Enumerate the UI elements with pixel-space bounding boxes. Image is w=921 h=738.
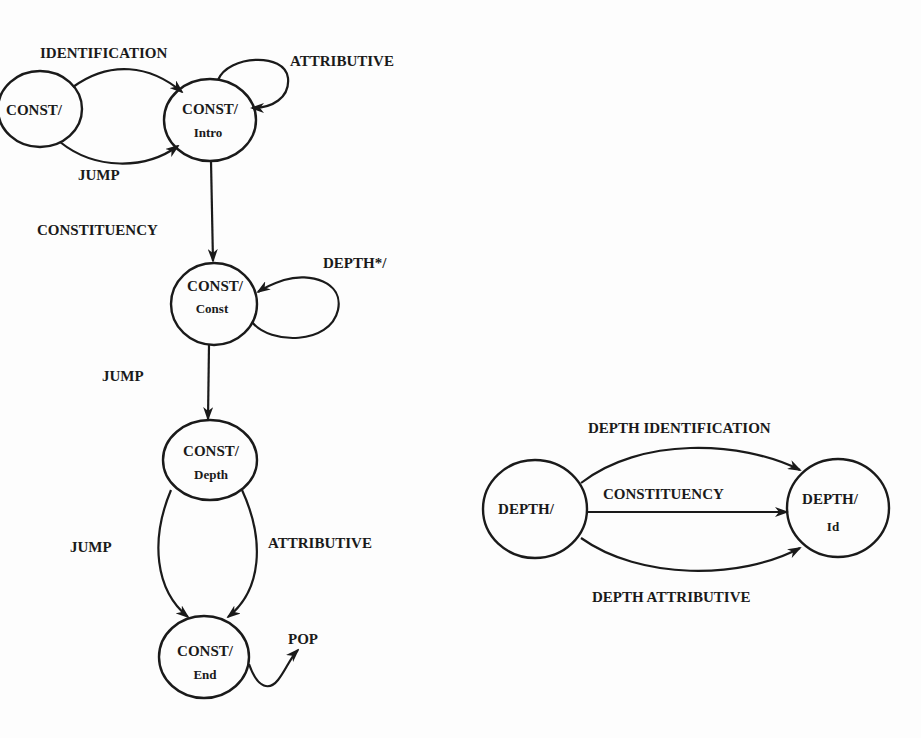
edge-jump-2	[208, 345, 209, 419]
node-const-end-sublabel: End	[193, 667, 217, 682]
edge-constituency	[211, 161, 213, 261]
edge-jump-1	[60, 142, 178, 164]
node-const-intro-label: CONST/	[182, 101, 239, 117]
edge-depth-identification-label: DEPTH IDENTIFICATION	[588, 420, 771, 436]
edge-attributive-2	[228, 490, 257, 617]
edge-depth-identification	[581, 448, 800, 483]
node-const-const: CONST/ Const	[171, 263, 257, 345]
node-const-end-label: CONST/	[177, 643, 234, 659]
edge-depth-attributive	[581, 538, 800, 571]
edge-jump-2-label: JUMP	[102, 368, 144, 384]
node-const-intro-circle	[164, 79, 256, 161]
state-diagram-canvas: CONST/ CONST/ Intro CONST/ Const CONST/ …	[0, 0, 921, 738]
edge-jump-1-label: JUMP	[78, 167, 120, 183]
node-const-depth-circle	[163, 420, 257, 500]
node-const-label: CONST/	[6, 102, 63, 118]
edge-depth-attributive-label: DEPTH ATTRIBUTIVE	[592, 589, 751, 605]
node-depth-id: DEPTH/ Id	[787, 459, 889, 557]
node-depth-id-label: DEPTH/	[802, 491, 859, 507]
edge-jump-3	[158, 490, 188, 617]
edge-jump-3-label: JUMP	[70, 539, 112, 555]
edge-attributive-loop-label: ATTRIBUTIVE	[290, 53, 394, 69]
edge-depth-constituency-label: CONSTITUENCY	[603, 486, 724, 502]
edge-pop-label: POP	[288, 631, 318, 647]
node-const-depth-sublabel: Depth	[194, 467, 229, 482]
node-const-depth-label: CONST/	[183, 443, 240, 459]
node-const-intro-sublabel: Intro	[194, 125, 223, 140]
edge-pop	[249, 650, 298, 686]
node-const-depth: CONST/ Depth	[163, 420, 257, 500]
edge-depth-star-loop-label: DEPTH*/	[323, 255, 387, 271]
node-depth-id-sublabel: Id	[827, 519, 840, 534]
edge-identification	[73, 69, 182, 92]
node-const: CONST/	[0, 71, 82, 147]
edge-identification-label: IDENTIFICATION	[40, 45, 167, 61]
node-const-const-label: CONST/	[187, 278, 244, 294]
node-const-end: CONST/ End	[159, 616, 249, 698]
node-depth-id-circle	[787, 459, 889, 557]
edge-attributive-2-label: ATTRIBUTIVE	[268, 535, 372, 551]
edge-depth-star-loop	[252, 277, 339, 338]
node-const-const-sublabel: Const	[196, 301, 229, 316]
node-depth-label: DEPTH/	[498, 501, 555, 517]
node-const-intro: CONST/ Intro	[164, 79, 256, 161]
edge-constituency-label: CONSTITUENCY	[37, 222, 158, 238]
node-depth: DEPTH/	[483, 460, 587, 558]
